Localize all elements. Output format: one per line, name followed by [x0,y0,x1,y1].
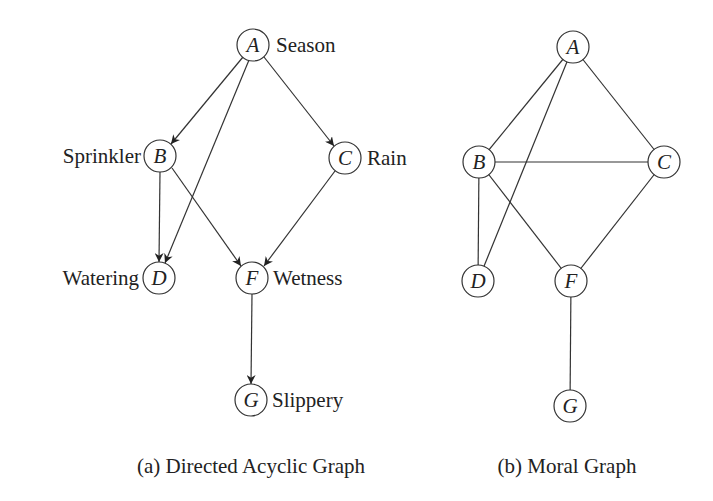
moral-edge-c-f [571,162,664,281]
dag-node-f-letter: F [245,266,259,290]
dag-node-b-label: Sprinkler [63,144,141,168]
dag-node-a: A Season [237,29,336,61]
moral-edge-b-d [478,162,479,281]
moral-edge-a-b [479,47,573,162]
dag-edge-a-d [165,60,249,263]
dag-node-b: B Sprinkler [63,140,176,172]
moral-node-c: C [648,146,680,178]
moral-node-b: B [463,146,495,178]
dag-node-g-letter: G [243,388,258,412]
dag-graph: A Season B Sprinkler C Rain D Watering F… [63,29,408,478]
moral-node-f-letter: F [564,269,578,293]
moral-edge-b-f [479,162,571,281]
dag-edge-b-d [159,172,160,262]
dag-edge-b-f [172,168,241,266]
moral-node-g-letter: G [562,394,577,418]
dag-node-c: C Rain [329,142,407,174]
moral-node-d: D [462,265,494,297]
dag-node-a-letter: A [245,33,260,57]
moral-node-f: F [555,265,587,297]
moral-edge-a-c [573,47,664,162]
figure-canvas: A Season B Sprinkler C Rain D Watering F… [0,0,713,501]
dag-edge-a-c [264,57,334,146]
dag-node-b-letter: B [154,144,167,168]
moral-caption: (b) Moral Graph [498,454,637,478]
moral-node-a-letter: A [565,35,580,59]
dag-node-g: G Slippery [235,384,344,416]
dag-edge-f-g [251,294,252,384]
dag-node-g-label: Slippery [272,388,344,412]
moral-graph: A B C D F G (b) Moral Graph [462,31,680,478]
dag-edge-c-f [264,171,335,266]
moral-node-c-letter: C [657,150,672,174]
moral-node-a: A [557,31,589,63]
dag-node-f: F Wetness [236,262,342,294]
moral-edge-f-g [570,281,571,406]
dag-node-d-letter: D [150,266,166,290]
dag-node-d-label: Watering [63,266,140,290]
dag-node-d: D Watering [63,262,175,294]
dag-node-a-label: Season [276,33,336,57]
moral-node-b-letter: B [473,150,486,174]
dag-node-f-label: Wetness [273,266,342,290]
moral-node-g: G [554,390,586,422]
dag-node-c-label: Rain [367,146,407,170]
dag-node-c-letter: C [338,146,353,170]
moral-node-d-letter: D [469,269,485,293]
dag-caption: (a) Directed Acyclic Graph [137,454,365,478]
